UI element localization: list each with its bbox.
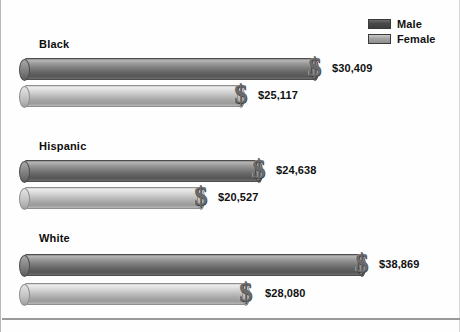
legend-label-female: Female <box>397 33 436 45</box>
bar-hispanic-female[interactable] <box>23 187 202 209</box>
value-label-black-female: $25,117 <box>258 89 298 101</box>
legend-label-male: Male <box>397 18 422 30</box>
legend-swatch-male-icon <box>368 19 391 29</box>
value-label-hispanic-male: $24,638 <box>276 164 316 176</box>
value-label-white-female: $28,080 <box>265 287 305 299</box>
group-label-hispanic: Hispanic <box>39 140 86 152</box>
value-label-white-male: $38,869 <box>379 258 419 270</box>
bar-white-male[interactable] <box>23 254 363 276</box>
chart-container: Male Female Black $ $30,409 $ $25,117 <box>0 0 460 332</box>
cylinder-right-end-icon <box>255 161 263 183</box>
bar-hispanic-male[interactable] <box>23 160 260 182</box>
cylinder-right-end-icon <box>242 284 250 306</box>
cylinder-right-end-icon <box>311 59 319 81</box>
value-label-black-male: $30,409 <box>332 62 372 74</box>
legend-swatch-female-icon <box>368 34 391 44</box>
bar-white-female[interactable] <box>23 283 247 305</box>
chart-axis-line <box>2 318 460 320</box>
cylinder-left-cap-icon <box>19 284 30 306</box>
cylinder-right-end-icon <box>237 86 245 108</box>
cylinder-left-cap-icon <box>19 188 30 210</box>
group-label-white: White <box>39 232 70 244</box>
chart-legend: Male Female <box>368 17 454 47</box>
cylinder-left-cap-icon <box>19 161 30 183</box>
group-label-black: Black <box>39 38 69 50</box>
legend-item-female[interactable]: Female <box>368 32 454 45</box>
legend-item-male[interactable]: Male <box>368 17 454 30</box>
bar-black-female[interactable] <box>23 85 242 107</box>
cylinder-left-cap-icon <box>19 86 30 108</box>
bar-black-male[interactable] <box>23 58 316 80</box>
value-label-hispanic-female: $20,527 <box>218 191 258 203</box>
cylinder-right-end-icon <box>197 188 205 210</box>
cylinder-right-end-icon <box>358 255 366 277</box>
cylinder-left-cap-icon <box>19 255 30 277</box>
cylinder-left-cap-icon <box>19 59 30 81</box>
